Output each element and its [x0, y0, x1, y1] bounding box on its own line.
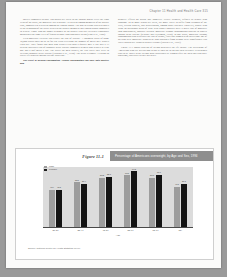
figure-box: Figure 11-1 Percentage of Americans over… [15, 148, 214, 260]
body-columns: society compared to only 150 nurses per … [20, 19, 208, 147]
bar-female: 50.4 [81, 184, 87, 227]
left-column: society compared to only 150 nurses per … [20, 19, 109, 147]
paragraph: Even moderate exercise can reduce the ri… [20, 38, 109, 58]
paragraph: society compared to only 150 nurses per … [20, 19, 109, 36]
bar-plot: 43.443.552.150.457.258.360.564.857.360.6… [43, 167, 193, 227]
legend-item-female: Female [44, 168, 57, 171]
chart-legend: Male Female [44, 165, 57, 172]
bar-female: 64.8 [131, 171, 137, 227]
bar-group: 60.564.8 [122, 167, 139, 227]
bar-group: 52.150.4 [72, 167, 89, 227]
bar-value-label: 43.5 [57, 186, 61, 188]
right-column: negative effects on health and longevity… [118, 19, 207, 147]
bar-male: 60.5 [124, 175, 130, 227]
bar-value-label: 50.4 [82, 180, 86, 182]
bar-group: 43.443.5 [47, 167, 64, 227]
bar-value-label: 60.6 [157, 171, 161, 173]
x-axis-tick-label: 65-74 [147, 229, 164, 231]
bar-female: 58.3 [106, 177, 112, 227]
figure-title-bar: Figure 11-1 Percentage of Americans over… [16, 151, 213, 161]
chart-area: Male Female 43.443.552.150.457.258.360.5… [26, 164, 204, 242]
bar-value-label: 64.8 [132, 168, 136, 170]
paragraph: Figure 11-1 shows patterns of weight gai… [118, 47, 207, 59]
x-axis-tick-label: 75+ [172, 229, 189, 231]
bar-value-label: 57.3 [150, 174, 154, 176]
textbook-page: Chapter 11 Health and Health Care 315 so… [6, 2, 221, 268]
bar-female: 50.1 [181, 184, 187, 227]
bar-male: 57.3 [149, 178, 155, 227]
paragraph: negative effects on health and longevity… [118, 19, 207, 45]
bar-female: 43.5 [56, 190, 62, 227]
bar-value-label: 47.1 [175, 183, 179, 185]
figure-number: Figure 11-1 [16, 154, 110, 159]
bar-male: 43.4 [49, 190, 55, 227]
bar-male: 57.2 [99, 178, 105, 227]
bar-male: 52.1 [74, 182, 80, 227]
bar-female: 60.6 [156, 175, 162, 227]
x-axis-tick-label: 35-44 [72, 229, 89, 231]
x-axis-tick-label: 55-64 [122, 229, 139, 231]
figure-source: Source: National Center for Health Stati… [28, 247, 80, 249]
legend-swatch-icon [44, 166, 47, 168]
legend-label: Female [49, 168, 57, 171]
bar-value-label: 60.5 [125, 172, 129, 174]
x-axis-tick-label: 45-54 [97, 229, 114, 231]
bar-value-label: 43.4 [50, 186, 54, 188]
paragraph-heading: The effect of alcohol consumption Alcoho… [20, 60, 109, 66]
bar-value-label: 52.1 [75, 179, 79, 181]
bar-group: 47.150.1 [172, 167, 189, 227]
x-axis-labels: 20-3435-4445-5455-6465-7475+ [43, 229, 193, 231]
bar-value-label: 58.3 [107, 173, 111, 175]
legend-swatch-icon [44, 169, 47, 171]
bar-male: 47.1 [174, 187, 180, 227]
bar-group: 57.258.3 [97, 167, 114, 227]
x-axis-line [43, 227, 193, 228]
bar-value-label: 57.2 [100, 174, 104, 176]
figure-title: Percentage of Americans overweight, by A… [110, 151, 213, 161]
bar-group: 57.360.6 [147, 167, 164, 227]
x-axis-title: Age [43, 234, 193, 237]
running-head: Chapter 11 Health and Health Care 315 [150, 10, 208, 13]
bar-value-label: 50.1 [182, 180, 186, 182]
x-axis-tick-label: 20-34 [47, 229, 64, 231]
